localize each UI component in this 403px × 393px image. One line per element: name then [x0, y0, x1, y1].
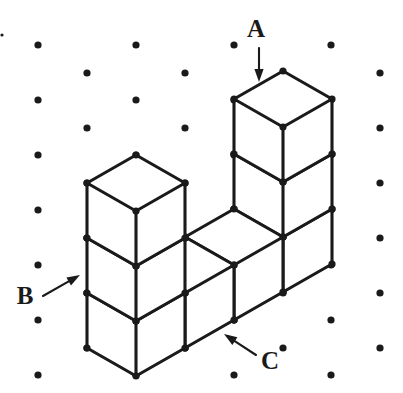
pointer-c-label: C [261, 347, 279, 374]
cube-vertex [279, 288, 286, 295]
cube-vertex [132, 151, 139, 158]
lattice-dot [376, 344, 383, 351]
lattice-dot-corner [0, 33, 3, 36]
lattice-dot [34, 96, 41, 103]
cube-stack [83, 67, 335, 379]
lattice-dot [181, 124, 188, 131]
lattice-dot [34, 371, 41, 378]
cube-vertex [230, 316, 237, 323]
lattice-dot [230, 371, 237, 378]
pointer-b: B [17, 275, 80, 309]
lattice-dot [83, 69, 90, 76]
cube-vertex [83, 289, 90, 296]
cube-vertex [328, 205, 335, 212]
cube-vertex [230, 150, 237, 157]
cube-vertex [83, 179, 90, 186]
cube-vertex [230, 261, 237, 268]
lattice-dot [181, 69, 188, 76]
cube-vertex [230, 205, 237, 212]
lattice-dot [279, 344, 286, 351]
lattice-dot [132, 41, 139, 48]
pointer-a-head [254, 69, 263, 82]
cube-vertex [230, 95, 237, 102]
cube-vertex [279, 67, 286, 74]
lattice-dot [34, 261, 41, 268]
cube-vertex [132, 262, 139, 269]
cube-vertex [132, 207, 139, 214]
cube-vertex [132, 317, 139, 324]
figure-canvas: ABC A B C [0, 0, 403, 393]
lattice-dot [327, 316, 334, 323]
lattice-dot [34, 316, 41, 323]
lattice-dot [230, 41, 237, 48]
lattice-dot [376, 69, 383, 76]
lattice-dot [34, 41, 41, 48]
cube-vertex [279, 123, 286, 130]
cube-vertex [279, 233, 286, 240]
lattice-dot [34, 206, 41, 213]
lattice-dot [132, 96, 139, 103]
pointer-b-label: B [17, 282, 34, 309]
pointer-b-shaft [43, 280, 70, 296]
cube-vertex [181, 234, 188, 241]
cube-vertex [181, 289, 188, 296]
cube-vertex [181, 179, 188, 186]
lattice-dot [327, 41, 334, 48]
pointer-c: C [224, 334, 279, 374]
cube-column [83, 151, 188, 379]
cube-vertex [83, 344, 90, 351]
cube-vertex [328, 260, 335, 267]
lattice-dot [83, 124, 90, 131]
cube-vertex [132, 372, 139, 379]
pointer-c-shaft [233, 340, 256, 355]
lattice-dot [376, 124, 383, 131]
pointer-a-label: A [247, 15, 265, 42]
cube-vertex [181, 344, 188, 351]
pointer-b-head [66, 275, 80, 285]
lattice-dot [327, 371, 334, 378]
lattice-dot [376, 234, 383, 241]
isometric-cube-figure: ABC [0, 0, 403, 393]
cube-vertex [328, 95, 335, 102]
pointer-c-head [224, 334, 237, 345]
cube-vertex [83, 234, 90, 241]
lattice-dot [34, 151, 41, 158]
cube-vertex [279, 178, 286, 185]
lattice-dot [376, 179, 383, 186]
cube-vertex [328, 150, 335, 157]
lattice-dot [376, 289, 383, 296]
pointer-a: A [247, 15, 265, 82]
